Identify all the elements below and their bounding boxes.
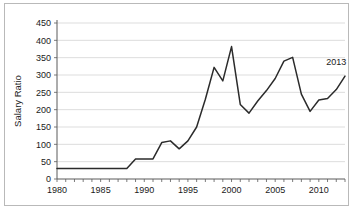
x-tick-label-1990: 1990 xyxy=(134,185,154,195)
gridlines xyxy=(57,23,345,162)
x-tick-label-2010: 2010 xyxy=(309,185,329,195)
y-tick-label-0: 0 xyxy=(46,174,51,184)
x-tick-label-2000: 2000 xyxy=(222,185,242,195)
y-tick-label-300: 300 xyxy=(36,70,51,80)
y-axis-title: Salary Ratio xyxy=(12,75,23,127)
y-tick-label-350: 350 xyxy=(36,53,51,63)
y-tick-label-150: 150 xyxy=(36,122,51,132)
y-tick-label-250: 250 xyxy=(36,88,51,98)
data-series-line xyxy=(57,47,345,169)
salary-ratio-line-chart: 450400350300250200150100500 198019851990… xyxy=(5,4,348,205)
x-tick-label-1995: 1995 xyxy=(178,185,198,195)
x-tick-label-1985: 1985 xyxy=(91,185,111,195)
y-tick-label-400: 400 xyxy=(36,36,51,46)
y-tick-label-200: 200 xyxy=(36,105,51,115)
y-tick-label-450: 450 xyxy=(36,18,51,28)
y-tick-labels: 450400350300250200150100500 xyxy=(36,18,51,184)
y-tick-label-100: 100 xyxy=(36,140,51,150)
x-tick-labels: 1980198519901995200020052010 xyxy=(47,185,329,195)
chart-annotations: 2013 xyxy=(326,57,346,67)
chart-screenshot: 450400350300250200150100500 198019851990… xyxy=(0,0,354,210)
y-tick-label-50: 50 xyxy=(41,157,51,167)
x-tick-label-1980: 1980 xyxy=(47,185,67,195)
annotation-0: 2013 xyxy=(326,57,346,67)
x-tick-label-2005: 2005 xyxy=(265,185,285,195)
figure-frame: 450400350300250200150100500 198019851990… xyxy=(4,3,349,206)
